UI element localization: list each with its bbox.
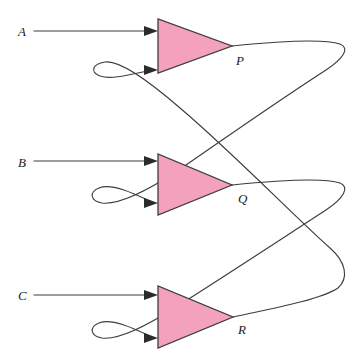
arrowhead-c-to-r <box>144 290 158 300</box>
arrowhead-feedback-to-q <box>144 198 158 208</box>
arrowhead-feedback-to-p <box>144 65 158 75</box>
input-label-b: B <box>18 155 26 170</box>
amplifier-label-p: P <box>235 53 244 68</box>
amplifier-label-r: R <box>237 322 246 337</box>
amplifier-p <box>158 19 232 73</box>
amplifier-q <box>158 154 232 215</box>
amplifier-r <box>158 286 233 348</box>
diagram-canvas: A B C P Q R <box>0 0 358 359</box>
input-label-c: C <box>18 288 27 303</box>
signal-flow-diagram: A B C P Q R <box>0 0 358 359</box>
arrowhead-feedback-to-r <box>144 333 158 343</box>
arrowhead-b-to-q <box>144 156 158 166</box>
amplifier-label-q: Q <box>238 191 248 206</box>
arrowhead-a-to-p <box>144 26 158 36</box>
input-label-a: A <box>17 24 26 39</box>
